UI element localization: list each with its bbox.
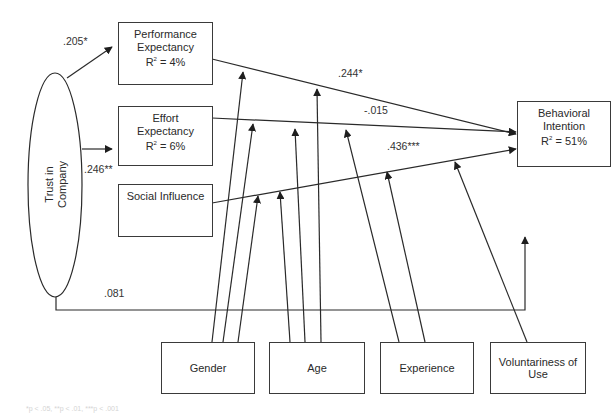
effort-r2: R2 = 6%: [146, 137, 186, 153]
arrow-age-perf-path: [317, 89, 321, 342]
social-influence-box: Social Influence: [118, 184, 213, 237]
behavioral-intention-box: Behavioral Intention R2 = 51%: [517, 101, 611, 167]
experience-label: Experience: [399, 362, 454, 375]
trust-line2: Company: [55, 151, 68, 219]
performance-line2: Expectancy: [137, 41, 194, 54]
effort-line2: Expectancy: [137, 125, 194, 138]
effort-line1: Effort: [152, 112, 178, 125]
arrow-effort-behavioral: [212, 118, 516, 132]
gender-box: Gender: [161, 342, 255, 394]
age-label: Age: [307, 362, 327, 375]
age-box: Age: [269, 342, 365, 394]
coef-effort-behavioral: -.015: [364, 104, 388, 116]
arrow-age-social-path: [280, 192, 290, 342]
performance-r2: R2 = 4%: [146, 53, 186, 69]
social-line1: Social Influence: [127, 190, 205, 203]
voluntariness-box: Voluntariness of Use: [490, 342, 586, 394]
voluntariness-line2: Use: [528, 368, 548, 381]
effort-expectancy-box: Effort Expectancy R2 = 6%: [118, 106, 213, 166]
arrow-gender-effort-path: [223, 124, 253, 342]
trust-in-company-label: Trust in Company: [43, 151, 68, 219]
voluntariness-line1: Voluntariness of: [499, 356, 577, 369]
arrow-social-behavioral: [212, 149, 516, 203]
performance-line1: Performance: [134, 28, 197, 41]
trust-line1: Trust in: [43, 151, 56, 219]
arrow-trust-performance: [67, 47, 112, 78]
coef-trust-effort: .246**: [84, 163, 113, 175]
behavioral-line2: Intention: [543, 120, 585, 133]
coef-trust-performance: .205*: [63, 35, 88, 47]
gender-label: Gender: [190, 362, 227, 375]
coef-trust-behavioral: .081: [104, 287, 124, 299]
arrow-gender-perf-path: [212, 72, 243, 342]
coef-social-behavioral: .436***: [387, 140, 420, 152]
coef-performance-behavioral: .244*: [338, 67, 363, 79]
behavioral-r2: R2 = 51%: [541, 132, 587, 148]
arrow-gender-social-path: [238, 196, 258, 342]
significance-footnote: *p < .05, **p < .01, ***p < .001: [26, 405, 119, 412]
behavioral-line1: Behavioral: [538, 107, 590, 120]
arrow-trust-behavioral: [56, 237, 525, 310]
performance-expectancy-box: Performance Expectancy R2 = 4%: [118, 22, 213, 85]
arrow-performance-behavioral: [212, 59, 516, 134]
experience-box: Experience: [380, 342, 474, 394]
arrow-voluntariness-social-path: [455, 162, 527, 342]
